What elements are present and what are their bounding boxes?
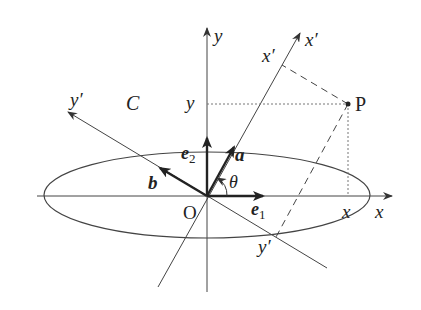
p-yprime-coord-label: y′ xyxy=(256,236,271,257)
vector-a-label: a xyxy=(235,144,245,165)
angle-theta-arc xyxy=(217,178,227,196)
x-prime-axis-label: x′ xyxy=(304,29,318,50)
point-p xyxy=(346,102,351,107)
p-y-coord-label: y xyxy=(184,92,195,113)
p-to-yprime-dashed xyxy=(276,104,348,237)
vector-b xyxy=(160,168,207,196)
vector-b-label: b xyxy=(148,172,158,193)
angle-theta-label: θ xyxy=(229,172,238,192)
y-prime-axis-label: y′ xyxy=(68,89,83,110)
p-x-coord-label: x xyxy=(341,201,351,222)
e1-label: e1 xyxy=(251,199,266,222)
curve-c-label: C xyxy=(126,92,140,114)
rotation-diagram: y x x′ y′ C O P y x x′ y′ e2 e1 a b θ xyxy=(0,0,421,310)
p-xprime-coord-label: x′ xyxy=(261,45,275,66)
point-p-label: P xyxy=(355,93,366,115)
x-axis-label: x xyxy=(374,201,384,222)
x-prime-axis xyxy=(158,33,300,287)
y-axis-label: y xyxy=(212,25,223,46)
p-to-xprime-dashed xyxy=(282,65,348,104)
e2-label: e2 xyxy=(181,143,196,166)
origin-label: O xyxy=(183,202,197,223)
